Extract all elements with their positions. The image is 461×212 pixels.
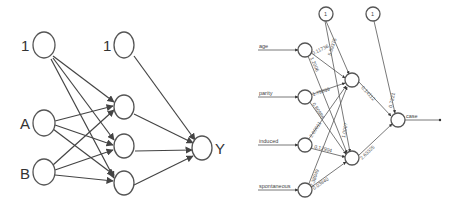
left-network: 1 A B 1 Y — [20, 32, 225, 195]
right-bias-label-1: 1 — [324, 11, 327, 17]
weight-h2-out: 2.63325 — [359, 144, 376, 161]
right-output-label: case — [406, 113, 418, 119]
weight-induced-h2: 0.12904 — [314, 143, 333, 153]
left-input-edges — [51, 56, 114, 181]
left-hidden-bias-label: 1 — [103, 37, 111, 54]
left-output-node — [192, 136, 212, 160]
left-output-label: Y — [215, 140, 225, 157]
right-input-label-age: age — [259, 43, 268, 49]
left-hidden-bias-node — [114, 32, 134, 58]
left-hidden-node-2 — [114, 134, 134, 158]
left-hidden-edges — [134, 56, 195, 185]
weight-h1-out: 0.14112 — [360, 85, 377, 102]
right-input-label-spontaneous: spontaneous — [259, 183, 291, 189]
weight-parity-h1: 1.79899 — [311, 86, 330, 97]
right-input-induced-node — [298, 138, 312, 152]
weight-induced-h1: 2.00011 — [308, 120, 323, 138]
right-input-label-induced: induced — [259, 138, 278, 144]
left-input-a-node — [33, 110, 55, 136]
left-input-a-label: A — [20, 115, 30, 132]
left-hidden-node-1 — [114, 95, 134, 119]
left-input-b-label: B — [20, 165, 30, 182]
weight-bias-out: 0.7221 — [387, 92, 396, 108]
diagram-canvas: 1 A B 1 Y — [0, 0, 461, 212]
left-hidden-node-3 — [114, 171, 134, 195]
weight-bias-h2: 1.0007 — [340, 122, 349, 138]
right-bias-label-2: 1 — [371, 11, 374, 17]
left-input-b-node — [33, 159, 55, 185]
right-network: 1 1 age parity induced spontaneous case … — [258, 7, 441, 197]
right-hidden-node-2 — [345, 151, 359, 165]
left-input-bias-node — [33, 32, 55, 58]
left-input-bias-label: 1 — [21, 37, 29, 54]
right-hidden-node-1 — [345, 73, 359, 87]
weight-parity-h2: 0.80988 — [311, 101, 326, 120]
right-output-node — [391, 113, 405, 127]
right-input-label-parity: parity — [259, 90, 273, 96]
right-input-parity-node — [298, 90, 312, 104]
weight-bias-h1: 5.59375 — [326, 37, 337, 56]
